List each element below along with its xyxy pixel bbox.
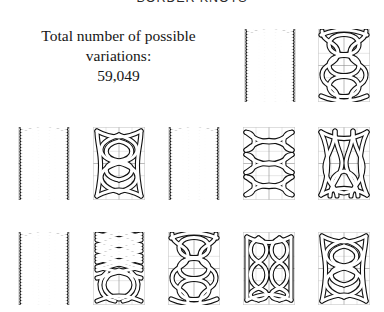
knot-r2c3 xyxy=(168,127,220,200)
knot-strands xyxy=(22,127,66,200)
knot-strands xyxy=(248,29,292,102)
knot-diagram xyxy=(243,232,295,305)
knot-r1c4 xyxy=(244,29,296,102)
knot-diagram xyxy=(18,232,70,305)
page-title: BORDER KNOTS xyxy=(0,0,384,5)
knot-diagram xyxy=(18,127,70,200)
knot-strands xyxy=(246,132,292,195)
knot-r3c2 xyxy=(93,232,145,305)
caption-line-2: variations: xyxy=(16,46,221,66)
knot-r2c2 xyxy=(93,127,145,200)
knot-diagram xyxy=(168,232,220,305)
border-knots-page: BORDER KNOTS Total number of possible va… xyxy=(0,0,384,312)
knot-r1c5 xyxy=(318,29,370,102)
knot-diagram xyxy=(168,127,220,200)
knot-r3c4 xyxy=(243,232,295,305)
caption-block: Total number of possible variations: 59,… xyxy=(16,26,221,86)
caption-line-1: Total number of possible xyxy=(16,26,221,46)
knot-strands xyxy=(22,232,66,305)
knot-diagram xyxy=(244,29,296,102)
caption-line-3: 59,049 xyxy=(16,66,221,86)
knot-diagram xyxy=(243,127,295,200)
knot-r3c3 xyxy=(168,232,220,305)
knot-r3c1 xyxy=(18,232,70,305)
knot-diagram xyxy=(318,127,370,200)
knot-diagram xyxy=(93,232,145,305)
knot-r2c5 xyxy=(318,127,370,200)
knot-r2c4 xyxy=(243,127,295,200)
knot-strands xyxy=(172,127,216,200)
knot-diagram xyxy=(93,127,145,200)
knot-diagram xyxy=(318,29,370,102)
knot-diagram xyxy=(318,232,370,305)
knot-strands xyxy=(321,131,367,196)
knot-r2c1 xyxy=(18,127,70,200)
knot-r3c5 xyxy=(318,232,370,305)
